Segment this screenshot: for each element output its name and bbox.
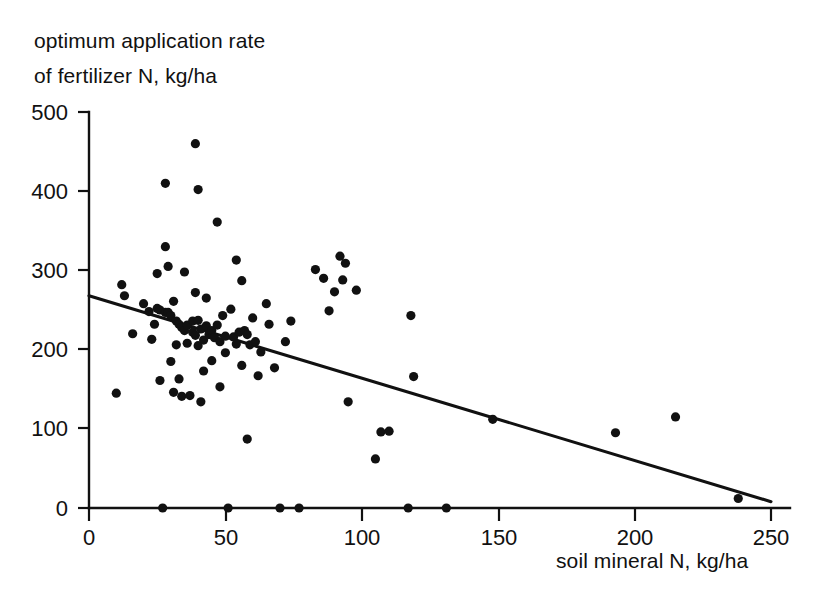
scatter-point <box>442 503 451 512</box>
scatter-point <box>177 392 186 401</box>
scatter-point <box>281 337 290 346</box>
scatter-point <box>262 299 271 308</box>
chart-svg: optimum application rate of fertilizer N… <box>0 0 818 599</box>
scatter-point <box>344 397 353 406</box>
scatter-point <box>376 427 385 436</box>
scatter-point <box>112 389 121 398</box>
scatter-plot-figure: optimum application rate of fertilizer N… <box>0 0 818 599</box>
scatter-point <box>213 320 222 329</box>
scatter-point <box>734 494 743 503</box>
x-tick-label-50: 50 <box>214 525 238 550</box>
scatter-point <box>224 503 233 512</box>
scatter-point <box>169 297 178 306</box>
scatter-point <box>174 374 183 383</box>
scatter-point <box>611 428 620 437</box>
scatter-point <box>213 217 222 226</box>
scatter-point <box>671 412 680 421</box>
scatter-point <box>196 397 205 406</box>
scatter-point <box>251 337 260 346</box>
scatter-point <box>128 329 137 338</box>
scatter-point <box>226 305 235 314</box>
scatter-point <box>384 427 393 436</box>
y-axis-ticks: 0 100 200 300 400 500 <box>31 100 89 521</box>
scatter-point <box>150 320 159 329</box>
x-axis-ticks: 0 50 100 150 200 250 <box>83 508 789 550</box>
x-tick-label-150: 150 <box>481 525 518 550</box>
scatter-point <box>215 382 224 391</box>
scatter-point <box>153 269 162 278</box>
scatter-point <box>221 348 230 357</box>
y-tick-label-400: 400 <box>31 179 68 204</box>
scatter-point <box>243 435 252 444</box>
scatter-point <box>199 366 208 375</box>
x-tick-label-250: 250 <box>753 525 790 550</box>
scatter-point <box>409 372 418 381</box>
scatter-point <box>139 299 148 308</box>
scatter-point <box>218 311 227 320</box>
y-tick-label-100: 100 <box>31 416 68 441</box>
y-tick-label-200: 200 <box>31 337 68 362</box>
scatter-point <box>338 275 347 284</box>
scatter-point <box>324 306 333 315</box>
scatter-point <box>144 307 153 316</box>
scatter-point <box>147 335 156 344</box>
scatter-point <box>319 274 328 283</box>
x-tick-label-100: 100 <box>344 525 381 550</box>
scatter-point <box>286 316 295 325</box>
scatter-point <box>194 316 203 325</box>
scatter-point <box>185 391 194 400</box>
scatter-point <box>117 280 126 289</box>
y-tick-label-0: 0 <box>56 496 68 521</box>
axes <box>89 112 790 508</box>
y-axis-title-line1: optimum application rate <box>34 29 265 52</box>
scatter-point <box>169 388 178 397</box>
scatter-point <box>232 256 241 265</box>
scatter-point <box>221 332 230 341</box>
x-tick-label-200: 200 <box>617 525 654 550</box>
scatter-point <box>237 361 246 370</box>
x-axis-title: soil mineral N, kg/ha <box>556 549 749 572</box>
scatter-point <box>172 340 181 349</box>
scatter-point <box>155 376 164 385</box>
scatter-point <box>161 242 170 251</box>
scatter-point <box>158 503 167 512</box>
scatter-point <box>352 286 361 295</box>
scatter-point <box>164 262 173 271</box>
scatter-point <box>275 503 284 512</box>
scatter-point <box>256 347 265 356</box>
scatter-point <box>294 503 303 512</box>
y-tick-label-300: 300 <box>31 258 68 283</box>
scatter-point <box>488 415 497 424</box>
y-axis-title-line2: of fertilizer N, kg/ha <box>34 64 217 87</box>
scatter-points-layer <box>112 139 743 513</box>
scatter-point <box>191 288 200 297</box>
scatter-point <box>254 371 263 380</box>
scatter-point <box>371 454 380 463</box>
scatter-point <box>237 276 246 285</box>
scatter-point <box>194 185 203 194</box>
x-tick-label-0: 0 <box>83 525 95 550</box>
scatter-point <box>311 265 320 274</box>
scatter-point <box>404 503 413 512</box>
scatter-point <box>183 339 192 348</box>
scatter-point <box>341 259 350 268</box>
scatter-point <box>406 311 415 320</box>
y-tick-label-500: 500 <box>31 100 68 125</box>
scatter-point <box>248 313 257 322</box>
scatter-point <box>191 139 200 148</box>
scatter-point <box>270 363 279 372</box>
scatter-point <box>180 267 189 276</box>
scatter-point <box>264 320 273 329</box>
scatter-point <box>161 179 170 188</box>
scatter-point <box>330 287 339 296</box>
scatter-point <box>207 356 216 365</box>
scatter-point <box>243 330 252 339</box>
scatter-point <box>202 294 211 303</box>
scatter-point <box>120 291 129 300</box>
scatter-point <box>166 357 175 366</box>
scatter-point <box>232 339 241 348</box>
